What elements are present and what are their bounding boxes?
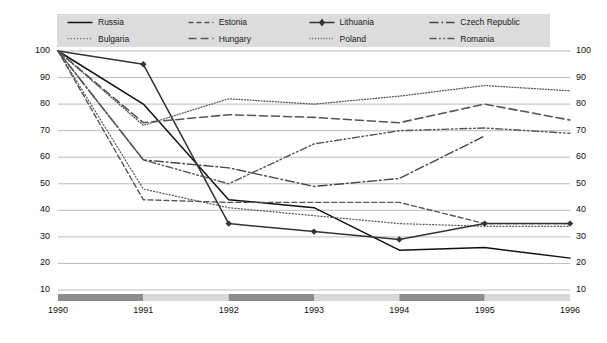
series-line-russia: [58, 51, 570, 258]
y-tick-right-50: 50: [576, 179, 602, 188]
y-tick-right-70: 70: [576, 126, 602, 135]
series-marker-lithuania: [311, 228, 317, 234]
y-tick-right-90: 90: [576, 73, 602, 82]
y-tick-left-70: 70: [24, 126, 50, 135]
x-tick-1993: 1993: [294, 306, 334, 315]
x-tick-1995: 1995: [465, 306, 505, 315]
series-line-hungary: [58, 51, 570, 123]
y-tick-left-50: 50: [24, 179, 50, 188]
series-line-lithuania: [58, 51, 570, 240]
timeline-segment-1995-1996: [485, 294, 570, 301]
timeline-segment-1990-1991: [58, 294, 143, 301]
chart-plot-area: [0, 0, 607, 343]
timeline-segment-1994-1995: [399, 294, 484, 301]
y-tick-left-60: 60: [24, 152, 50, 161]
y-tick-left-90: 90: [24, 73, 50, 82]
y-tick-left-30: 30: [24, 232, 50, 241]
y-tick-right-80: 80: [576, 99, 602, 108]
timeline-segment-1992-1993: [229, 294, 314, 301]
timeline-band: [58, 294, 570, 301]
y-tick-left-10: 10: [24, 285, 50, 294]
y-tick-right-60: 60: [576, 152, 602, 161]
line-chart: [0, 0, 607, 343]
gridlines: [58, 51, 570, 290]
series-marker-lithuania: [226, 220, 232, 226]
x-tick-1990: 1990: [38, 306, 78, 315]
y-tick-left-20: 20: [24, 258, 50, 267]
y-tick-right-40: 40: [576, 205, 602, 214]
chart-page: RussiaBulgariaEstoniaHungaryLithuaniaPol…: [0, 0, 607, 343]
timeline-segment-1993-1994: [314, 294, 399, 301]
timeline-segment-1991-1992: [143, 294, 228, 301]
series-line-poland: [58, 51, 570, 125]
y-tick-left-40: 40: [24, 205, 50, 214]
x-tick-1994: 1994: [379, 306, 419, 315]
y-tick-right-30: 30: [576, 232, 602, 241]
x-tick-1992: 1992: [209, 306, 249, 315]
y-tick-left-80: 80: [24, 99, 50, 108]
y-tick-right-100: 100: [576, 46, 602, 55]
series-line-estonia: [58, 51, 570, 224]
series-lines: [58, 51, 573, 258]
y-tick-left-100: 100: [24, 46, 50, 55]
x-tick-1991: 1991: [123, 306, 163, 315]
x-tick-1996: 1996: [550, 306, 590, 315]
y-tick-right-10: 10: [576, 285, 602, 294]
y-tick-right-20: 20: [576, 258, 602, 267]
series-marker-lithuania: [140, 61, 146, 67]
